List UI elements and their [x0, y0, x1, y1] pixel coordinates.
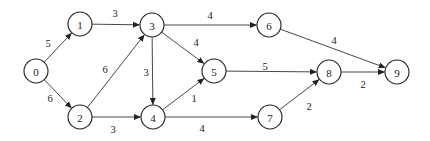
node-label: 8: [326, 67, 332, 79]
node-3: 3: [140, 13, 164, 37]
directed-graph: 56363344145422 0123456789: [0, 0, 430, 141]
node-8: 8: [317, 60, 341, 84]
edge-3-to-4: [152, 37, 153, 105]
node-label: 4: [150, 112, 156, 124]
edge-weight-3-6: 4: [207, 10, 213, 21]
edge-weight-1-3: 3: [112, 8, 117, 19]
node-label: 0: [33, 66, 39, 78]
node-label: 1: [77, 19, 83, 31]
node-6: 6: [257, 13, 281, 37]
edge-5-to-8: [226, 71, 317, 72]
node-label: 3: [149, 20, 155, 32]
node-7: 7: [258, 105, 282, 129]
node-4: 4: [141, 105, 165, 129]
node-5: 5: [202, 59, 226, 83]
edge-weight-4-5: 1: [191, 93, 196, 104]
edge-weight-5-8: 5: [262, 61, 267, 72]
edge-weight-8-9: 2: [360, 79, 365, 90]
edge-4-to-5: [163, 79, 204, 110]
node-label: 9: [394, 67, 400, 79]
node-label: 6: [266, 20, 272, 32]
edge-weight-3-5: 4: [193, 37, 199, 48]
node-label: 5: [211, 66, 217, 78]
edge-weight-2-4: 3: [110, 124, 115, 135]
node-label: 2: [77, 112, 83, 124]
edge-2-to-3: [87, 35, 144, 108]
node-0: 0: [24, 59, 48, 83]
edge-weight-3-4: 3: [143, 67, 148, 78]
node-label: 7: [267, 112, 273, 124]
edge-weight-0-1: 5: [45, 38, 50, 49]
edge-weight-0-2: 6: [47, 93, 52, 104]
node-2: 2: [68, 105, 92, 129]
edge-weight-6-9: 4: [331, 35, 337, 46]
edge-weight-2-3: 6: [102, 64, 107, 75]
edge-weight-7-8: 2: [306, 101, 311, 112]
nodes-layer: 0123456789: [24, 12, 409, 129]
node-1: 1: [68, 12, 92, 36]
edge-1-to-3: [92, 24, 140, 25]
node-9: 9: [385, 60, 409, 84]
edge-weight-4-7: 4: [199, 123, 205, 134]
edge-7-to-8: [280, 80, 320, 110]
